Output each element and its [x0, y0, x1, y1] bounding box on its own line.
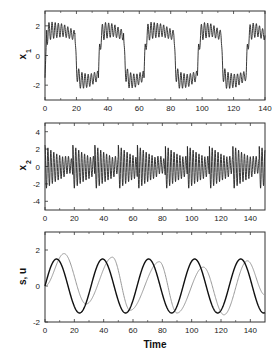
y-tick-label: -2 [33, 180, 41, 189]
x-tick-label: 120 [227, 104, 241, 113]
y-axis-label: s, u [17, 268, 28, 285]
x-tick-label: 120 [214, 214, 228, 223]
panel-x2: 020406080100120140-4-2024x2 [17, 123, 265, 223]
x-tick-label: 140 [258, 104, 272, 113]
y-tick-label: 2 [36, 246, 41, 255]
y-tick-label: 0 [36, 282, 41, 291]
x-tick-label: 100 [195, 104, 209, 113]
y-tick-label: 0 [36, 163, 41, 172]
x-tick-label: 60 [129, 326, 138, 335]
x-tick-label: 140 [244, 326, 258, 335]
x-tick-label: 80 [166, 104, 175, 113]
x-tick-label: 20 [70, 326, 79, 335]
x-tick-label: 0 [43, 326, 48, 335]
x-tick-label: 60 [135, 104, 144, 113]
panel-su: 020406080100120140-202s, uTime [17, 232, 265, 350]
x-tick-label: 80 [158, 326, 167, 335]
series-line [45, 145, 265, 188]
x-tick-label: 40 [99, 326, 108, 335]
x-tick-label: 40 [103, 104, 112, 113]
x-tick-label: 40 [99, 214, 108, 223]
series-line [45, 259, 265, 313]
y-tick-label: 2 [36, 22, 41, 31]
chart-figure: 020406080100120140-202x1 020406080100120… [0, 0, 279, 357]
y-tick-label: 0 [36, 52, 41, 61]
y-axis-label: x1 [17, 49, 32, 60]
y-tick-label: -4 [33, 197, 41, 206]
x-tick-label: 0 [43, 104, 48, 113]
series-line [45, 22, 265, 88]
x-tick-label: 20 [70, 214, 79, 223]
y-axis-label: x2 [17, 160, 32, 171]
y-tick-label: 4 [36, 128, 41, 137]
x-tick-label: 140 [244, 214, 258, 223]
x-axis-label: Time [143, 339, 167, 350]
x-tick-label: 0 [43, 214, 48, 223]
y-tick-label: 2 [36, 145, 41, 154]
x-tick-label: 20 [72, 104, 81, 113]
y-tick-label: -2 [33, 318, 41, 327]
x-tick-label: 60 [129, 214, 138, 223]
panel-x1: 020406080100120140-202x1 [17, 11, 272, 113]
x-tick-label: 100 [185, 214, 199, 223]
x-tick-label: 120 [214, 326, 228, 335]
y-tick-label: -2 [33, 81, 41, 90]
series-line [45, 254, 265, 315]
x-tick-label: 80 [158, 214, 167, 223]
x-tick-label: 100 [185, 326, 199, 335]
